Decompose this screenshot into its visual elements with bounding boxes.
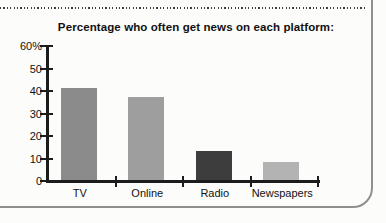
y-tick-label: 0	[6, 175, 42, 187]
y-tick-label: 60%	[6, 40, 42, 52]
y-tick-label: 50	[6, 63, 42, 75]
x-tick	[182, 176, 184, 187]
bar-online	[128, 97, 164, 180]
x-tick	[317, 176, 319, 187]
page: Percentage who often get news on each pl…	[0, 0, 386, 223]
y-tick-label: 10	[6, 153, 42, 165]
bar-radio	[196, 151, 232, 180]
x-tick	[115, 176, 117, 187]
bar-tv	[61, 88, 97, 180]
x-label-newspapers: Newspapers	[240, 187, 324, 199]
x-tick	[250, 176, 252, 187]
y-tick-label: 20	[6, 130, 42, 142]
chart-title: Percentage who often get news on each pl…	[10, 21, 382, 33]
y-tick-label: 30	[6, 108, 42, 120]
bar-newspapers	[263, 162, 299, 180]
y-tick-label: 40	[6, 85, 42, 97]
